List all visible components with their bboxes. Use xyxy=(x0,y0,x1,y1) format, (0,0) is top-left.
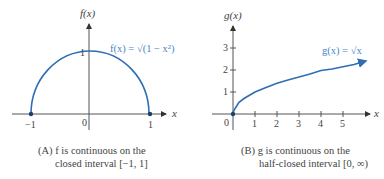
caption-a-line1: f is continuous on the xyxy=(55,145,145,156)
xtick-b-2: 2 xyxy=(274,118,279,129)
caption-b-line1: g is continuous on the xyxy=(258,145,350,156)
ytick-b-2: 2 xyxy=(223,64,228,75)
ticks-b xyxy=(230,48,343,117)
xtick-b-3: 3 xyxy=(296,118,301,129)
xlabel-b: x xyxy=(373,107,379,119)
ylabel-b: g(x) xyxy=(224,9,242,22)
xtick-b-5: 5 xyxy=(340,118,345,129)
caption-b-line2: half-closed interval [0, ∞) xyxy=(259,158,368,169)
xtick-a-0: 0 xyxy=(82,117,87,128)
endpoint-dot-left xyxy=(29,112,33,116)
caption-a-line2: closed interval [−1, 1] xyxy=(55,158,148,169)
endpoint-dot-right xyxy=(148,112,152,116)
xtick-a-1: 1 xyxy=(148,119,153,130)
ytick-a-1: 1 xyxy=(80,47,85,58)
xtick-b-4: 4 xyxy=(318,118,323,129)
sqrt-curve xyxy=(233,61,366,114)
function-label-a: f(x) = √(1 − x²) xyxy=(110,43,175,55)
ytick-b-1: 1 xyxy=(223,86,228,97)
panel-b: g(x) x 1 2 3 0 1 2 3 4 5 g(x) = √x xyxy=(212,9,379,130)
xtick-b-1: 1 xyxy=(252,118,257,129)
xtick-b-0: 0 xyxy=(224,117,229,128)
caption-a: (A) f is continuous on the closed interv… xyxy=(38,144,148,170)
xlabel-a: x xyxy=(171,107,177,119)
caption-a-letter: (A) xyxy=(38,145,53,156)
caption-b: (B) g is continuous on the half-closed i… xyxy=(241,144,368,170)
ylabel-a: f(x) xyxy=(80,7,96,20)
xtick-a-neg1: −1 xyxy=(25,119,36,130)
ytick-b-3: 3 xyxy=(223,42,228,53)
function-label-b: g(x) = √x xyxy=(322,45,362,57)
semicircle-curve xyxy=(31,51,149,114)
endpoint-dot-origin xyxy=(231,112,235,116)
panel-a: f(x) x 1 −1 0 1 f(x) = √(1 − x²) xyxy=(12,7,177,130)
caption-b-letter: (B) xyxy=(241,145,255,156)
